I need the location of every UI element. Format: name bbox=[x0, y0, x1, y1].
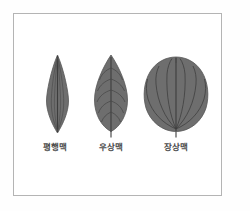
leaf-label-palmate: 장상맥 bbox=[143, 142, 209, 152]
leaf-venation-figure: 평행맥 우상맥 장상맥 bbox=[0, 0, 250, 211]
leaf-label-pinnate: 우상맥 bbox=[78, 142, 144, 152]
leaf-parallel bbox=[47, 55, 69, 133]
leaf-pinnate bbox=[95, 55, 128, 138]
leaf-diagram-canvas bbox=[0, 0, 250, 211]
leaf-palmate bbox=[144, 57, 208, 138]
